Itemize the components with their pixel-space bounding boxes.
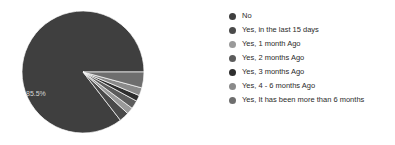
pie-chart-figure: 85.5% NoYes, in the last 15 daysYes, 1 m…	[0, 0, 395, 145]
legend-item[interactable]: Yes, 4 - 6 months Ago	[229, 79, 395, 93]
legend-color-swatch-icon	[229, 41, 236, 48]
legend-item-label: Yes, in the last 15 days	[242, 23, 319, 37]
legend-item-label: Yes, 3 months Ago	[242, 65, 304, 79]
legend-color-swatch-icon	[229, 97, 236, 104]
pie-slice-group	[22, 11, 144, 133]
legend-item-label: Yes, 1 month Ago	[242, 37, 301, 51]
legend-item-label: Yes, 2 months Ago	[242, 51, 304, 65]
legend-item[interactable]: Yes, in the last 15 days	[229, 23, 395, 37]
legend-color-swatch-icon	[229, 13, 236, 20]
legend-item[interactable]: Yes, It has been more than 6 months	[229, 93, 395, 107]
legend-item[interactable]: Yes, 3 months Ago	[229, 65, 395, 79]
legend-color-swatch-icon	[229, 27, 236, 34]
legend-item-label: No	[242, 9, 252, 23]
pie-slice-percent-label: 85.5%	[26, 90, 46, 97]
legend-item[interactable]: No	[229, 9, 395, 23]
chart-legend: NoYes, in the last 15 daysYes, 1 month A…	[229, 9, 395, 107]
pie-chart-svg: 85.5%	[0, 0, 210, 145]
legend-item-label: Yes, It has been more than 6 months	[242, 93, 364, 107]
legend-color-swatch-icon	[229, 83, 236, 90]
pie-chart-plot-area: 85.5%	[0, 0, 210, 145]
legend-item-label: Yes, 4 - 6 months Ago	[242, 79, 315, 93]
legend-item[interactable]: Yes, 1 month Ago	[229, 37, 395, 51]
legend-color-swatch-icon	[229, 55, 236, 62]
legend-item[interactable]: Yes, 2 months Ago	[229, 51, 395, 65]
legend-color-swatch-icon	[229, 69, 236, 76]
